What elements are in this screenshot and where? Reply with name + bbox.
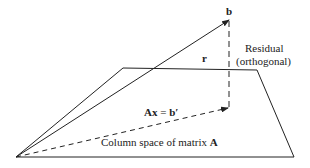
label-b: b (226, 5, 232, 17)
label-column-space-text: Column space of matrix (101, 136, 210, 148)
label-bprime: b′ (169, 106, 178, 118)
label-ax: Ax (144, 106, 158, 118)
label-r: r (202, 52, 207, 64)
projection-vector (16, 108, 228, 157)
label-residual: Residual (245, 42, 284, 54)
label-column-space: Column space of matrix A (101, 136, 218, 148)
label-ax-equals-bprime: Ax = b′ (144, 106, 178, 118)
label-matrix-a: A (210, 136, 218, 148)
label-equals: = (157, 106, 169, 118)
least-squares-diagram: b r Residual (orthogonal) Ax = b′ Column… (0, 0, 310, 168)
label-orthogonal: (orthogonal) (236, 55, 291, 68)
